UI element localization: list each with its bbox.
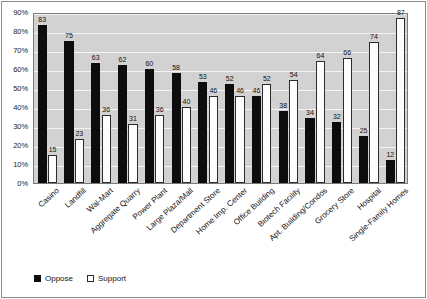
bar-support [48,155,57,184]
bar-value-label: 46 [206,87,221,95]
bar-group: 3266 [329,14,356,183]
bar-value-label: 46 [232,87,247,95]
bar-support [396,18,405,183]
bar-group: 7523 [61,14,88,183]
bar-value-label: 54 [286,71,301,79]
bar-support [316,61,325,183]
bar-value-label: 52 [259,75,274,83]
bar-support [102,115,111,183]
bar-support [155,115,164,183]
bar-value-label: 74 [366,33,381,41]
bar-oppose [359,136,368,184]
bar-oppose [38,25,47,183]
bar-support [262,84,271,183]
bar-group: 6336 [88,14,115,183]
bar-support [369,42,378,183]
y-axis-tick-label: 20% [13,142,28,150]
x-axis-tick-label: Casino [37,186,62,209]
bar-value-label: 87 [393,9,408,17]
bar-support [343,58,352,183]
bar-value-label: 53 [195,73,210,81]
bar-value-label: 36 [99,106,114,114]
bar-value-label: 64 [313,52,328,60]
bar-value-label: 83 [35,16,50,24]
bar-oppose [145,69,154,183]
y-axis-tick-label: 0% [17,180,28,188]
y-axis-tick-label: 60% [13,66,28,74]
bar-support [209,96,218,183]
legend-item-support[interactable]: Support [87,274,126,283]
bar-value-label: 36 [152,106,167,114]
y-axis-tick-label: 70% [13,47,28,55]
bar-value-label: 62 [115,56,130,64]
bar-group: 8315 [34,14,61,183]
bar-group: 2574 [355,14,382,183]
bar-chart: 0%10%20%30%40%50%60%70%80%90% 8315752363… [0,0,427,299]
bar-support [75,139,84,183]
bar-group: 4652 [248,14,275,183]
filled-square-icon [34,275,41,282]
bar-value-label: 60 [142,60,157,68]
chart-legend: OpposeSupport [34,271,126,285]
y-axis-tick-label: 50% [13,85,28,93]
y-axis-tick-label: 30% [13,123,28,131]
bar-group: 5246 [222,14,249,183]
hollow-square-icon [87,275,94,282]
bar-group: 1287 [382,14,409,183]
bar-value-label: 58 [169,64,184,72]
y-axis-tick-label: 40% [13,104,28,112]
bar-value-label: 52 [222,75,237,83]
bar-value-label: 40 [179,98,194,106]
bar-oppose [172,73,181,183]
bar-group: 3854 [275,14,302,183]
y-axis-tick-label: 80% [13,28,28,36]
bar-value-label: 66 [340,49,355,57]
bar-group: 3464 [302,14,329,183]
bar-oppose [305,118,314,183]
bar-oppose [198,82,207,183]
bar-support [182,107,191,183]
bar-oppose [64,41,73,184]
bar-group: 6036 [141,14,168,183]
bar-value-label: 63 [88,54,103,62]
bar-oppose [225,84,234,183]
bar-oppose [91,63,100,183]
x-axis: CasinoLandfillWal-MartAggregate QuarryPo… [33,186,408,264]
bar-oppose [386,160,395,183]
legend-item-label: Support [98,274,126,283]
legend-item-oppose[interactable]: Oppose [34,274,73,283]
bar-group: 5346 [195,14,222,183]
bar-value-label: 75 [61,32,76,40]
x-axis-tick-label: Landfill [63,186,88,210]
y-axis-tick-label: 90% [13,9,28,17]
bar-oppose [332,122,341,183]
bar-oppose [252,96,261,183]
legend-item-label: Oppose [45,274,73,283]
bars-layer: 8315752363366231603658405346524646523854… [34,14,407,183]
y-axis: 0%10%20%30%40%50%60%70%80%90% [0,13,30,184]
bar-group: 5840 [168,14,195,183]
bar-support [289,80,298,183]
bar-value-label: 31 [125,115,140,123]
y-axis-tick-label: 10% [13,161,28,169]
bar-oppose [118,65,127,183]
bar-oppose [279,111,288,183]
bar-support [128,124,137,183]
bar-value-label: 23 [72,130,87,138]
bar-support [235,96,244,183]
bar-value-label: 15 [45,146,60,154]
bar-group: 6231 [114,14,141,183]
plot-area: 8315752363366231603658405346524646523854… [33,13,408,184]
